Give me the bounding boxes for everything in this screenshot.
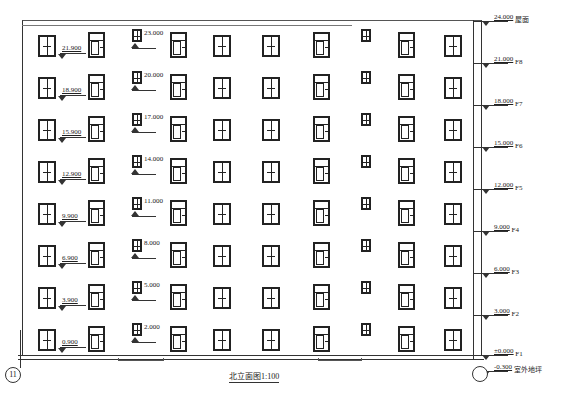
level-value: 18.000: [494, 97, 513, 105]
window-small: [361, 113, 371, 126]
level-marker-icon: [58, 306, 66, 311]
level-value: 24.000: [494, 13, 513, 21]
window-handle: [325, 299, 328, 300]
window-head-level-label: 23.000: [144, 30, 163, 37]
window-with-transom: [88, 158, 105, 184]
floor-level-label: 15.000 F6: [494, 140, 522, 147]
level-marker-icon: [482, 105, 490, 110]
window-with-transom: [398, 284, 415, 310]
window-double-casement: [38, 203, 56, 225]
window-double-casement: [213, 245, 231, 267]
window-sash: [91, 335, 99, 349]
level-marker-icon: [58, 222, 66, 227]
window-handle: [410, 47, 413, 48]
window-transom-bar: [363, 246, 369, 247]
window-with-transom: [398, 116, 415, 142]
window-small: [132, 29, 142, 42]
window-handle: [47, 298, 51, 299]
window-sash: [401, 209, 409, 223]
level-leader: [60, 347, 86, 348]
window-small: [132, 323, 142, 336]
window-head-level-label: 11.000: [144, 198, 163, 205]
floor-level-label: 24.000 屋面: [494, 14, 529, 21]
floor-level-label: 12.000 F5: [494, 182, 522, 189]
window-double-casement: [444, 77, 462, 99]
window-handle: [325, 89, 328, 90]
window-handle: [47, 340, 51, 341]
level-marker-icon: [482, 189, 490, 194]
floor-level-label: ±0.000 F1: [494, 348, 523, 355]
level-value: ±0.000: [494, 347, 514, 355]
window-handle: [182, 341, 185, 342]
level-leader: [60, 53, 86, 54]
window-double-casement: [38, 77, 56, 99]
window-double-casement: [444, 287, 462, 309]
window-double-casement: [262, 119, 280, 141]
level-value: 12.000: [494, 181, 513, 189]
window-with-transom: [313, 158, 330, 184]
level-leader: [132, 342, 156, 343]
level-leader: [474, 147, 508, 148]
window-sash: [173, 293, 181, 307]
level-name: F6: [513, 142, 522, 150]
window-sash: [316, 83, 324, 97]
window-sash: [91, 293, 99, 307]
window-sash: [316, 167, 324, 181]
window-handle: [47, 130, 51, 131]
window-handle: [271, 172, 275, 173]
window-with-transom: [398, 242, 415, 268]
window-handle: [325, 257, 328, 258]
level-leader: [132, 132, 156, 133]
drawing-title: 北立面图1:100: [229, 370, 279, 383]
level-name: F4: [510, 226, 519, 234]
window-handle: [410, 131, 413, 132]
window-handle: [410, 341, 413, 342]
level-marker-icon: [58, 348, 66, 353]
window-double-casement: [444, 35, 462, 57]
window-transom-bar: [134, 288, 140, 289]
window-double-casement: [38, 161, 56, 183]
axis-bubble-left: 11: [5, 367, 21, 383]
window-small: [132, 239, 142, 252]
window-sash: [91, 167, 99, 181]
level-marker-icon: [58, 138, 66, 143]
window-handle: [453, 340, 457, 341]
level-value: 6.000: [494, 265, 510, 273]
window-head-level-label: 20.000: [144, 72, 163, 79]
window-with-transom: [170, 242, 187, 268]
level-value: -0.300: [494, 363, 512, 371]
window-sash: [401, 83, 409, 97]
window-with-transom: [170, 158, 187, 184]
window-sash: [173, 167, 181, 181]
window-sash: [91, 83, 99, 97]
window-double-casement: [262, 77, 280, 99]
level-marker-icon: [482, 63, 490, 68]
window-handle: [453, 130, 457, 131]
window-handle: [100, 299, 103, 300]
axis-leader-line: [20, 330, 21, 368]
window-sash: [91, 125, 99, 139]
level-leader: [474, 273, 508, 274]
sill-level-label: 6.900: [62, 255, 78, 262]
entrance-step: [318, 358, 362, 361]
window-sash: [91, 251, 99, 265]
window-sash: [316, 125, 324, 139]
level-marker-icon: [482, 355, 490, 360]
level-leader: [474, 315, 508, 316]
window-sash: [401, 41, 409, 55]
window-with-transom: [313, 32, 330, 58]
level-marker-icon: [482, 315, 490, 320]
window-sash: [316, 335, 324, 349]
window-with-transom: [88, 284, 105, 310]
window-handle: [100, 173, 103, 174]
window-with-transom: [88, 32, 105, 58]
floor-level-label: 9.000 F4: [494, 224, 519, 231]
level-marker-icon: [482, 147, 490, 152]
level-leader: [474, 21, 508, 22]
window-transom-bar: [134, 78, 140, 79]
window-small: [132, 113, 142, 126]
window-handle: [182, 299, 185, 300]
window-transom-bar: [363, 120, 369, 121]
window-sash: [173, 209, 181, 223]
window-handle: [271, 298, 275, 299]
